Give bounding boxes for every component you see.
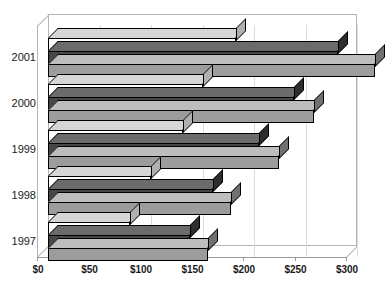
bar-top-face (48, 212, 140, 222)
x-axis-label: $300 (336, 264, 358, 275)
bar-top-face (48, 192, 241, 202)
y-axis-label-2000: 2000 (2, 97, 36, 109)
y-axis-label-1997: 1997 (2, 235, 36, 247)
x-axis-label: $100 (130, 264, 152, 275)
bar-1997-series-3 (48, 248, 208, 261)
x-axis-label: $250 (284, 264, 306, 275)
y-axis-label-1998: 1998 (2, 189, 36, 201)
bar-top-face (48, 54, 385, 64)
x-axis-tick (243, 257, 244, 261)
plot-area (37, 14, 357, 257)
plot-left-wall (37, 25, 48, 257)
bar-top-face (48, 179, 223, 189)
bar-top-face (48, 87, 304, 97)
x-axis-label: $200 (233, 264, 255, 275)
x-axis-tick (346, 257, 347, 261)
x-axis-label: $150 (181, 264, 203, 275)
bar-top-face (48, 120, 193, 130)
bar-top-face (48, 41, 348, 51)
x-axis-label: $50 (81, 264, 98, 275)
x-axis-tick (37, 257, 38, 261)
x-axis-tick (295, 257, 296, 261)
bar-front-face (48, 248, 208, 261)
x-axis-label: $0 (32, 264, 43, 275)
bar-top-face (48, 133, 269, 143)
bar-top-face (48, 166, 161, 176)
bar-chart: $0$50$100$150$200$250$300 20012000199919… (0, 0, 389, 286)
bar-top-face (48, 146, 289, 156)
bar-top-face (48, 225, 200, 235)
bar-top-face (48, 238, 218, 248)
bar-top-face (48, 74, 213, 84)
bar-top-face (48, 28, 246, 38)
y-axis-label-1999: 1999 (2, 143, 36, 155)
bar-top-face (48, 100, 324, 110)
y-axis-label-2001: 2001 (2, 51, 36, 63)
chart-title (0, 0, 389, 3)
bar-end-cap (375, 44, 385, 67)
